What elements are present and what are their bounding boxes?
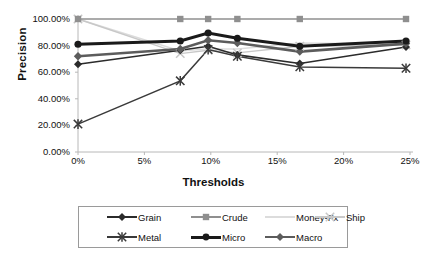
legend-row: GrainCrudeMoney-FxShip — [79, 207, 347, 227]
legend-swatch-crude-icon — [191, 211, 221, 223]
y-tick-label: 60.00% — [18, 67, 70, 77]
legend-swatch-grain-icon — [107, 211, 137, 223]
x-axis-title: Thresholds — [0, 176, 427, 188]
legend-row: MetalMicroMacro — [79, 227, 347, 247]
legend-label: Grain — [138, 212, 161, 223]
y-tick-label: 40.00% — [18, 94, 70, 104]
legend-label: Ship — [346, 212, 365, 223]
series-markers-ship — [74, 15, 410, 58]
legend-label: Macro — [296, 232, 322, 243]
legend-label: Metal — [138, 232, 161, 243]
legend-item-crude[interactable]: Crude — [191, 207, 248, 227]
x-tick-label: 25% — [390, 156, 427, 166]
legend-item-metal[interactable]: Metal — [107, 227, 161, 247]
legend-swatch-money-fx-icon — [265, 211, 295, 223]
series-line-metal — [78, 50, 406, 124]
y-tick-label: 20.00% — [18, 120, 70, 130]
legend-item-macro[interactable]: Macro — [265, 227, 322, 247]
y-tick-label: 100.00% — [18, 14, 70, 24]
x-tick-label: 10% — [191, 156, 231, 166]
legend-swatch-ship-icon — [315, 211, 345, 223]
legend-item-micro[interactable]: Micro — [191, 227, 245, 247]
x-tick-label: 5% — [124, 156, 164, 166]
legend-swatch-macro-icon — [265, 231, 295, 243]
x-tick-label: 15% — [257, 156, 297, 166]
chart-legend: GrainCrudeMoney-FxShip MetalMicroMacro — [78, 206, 348, 248]
legend-item-grain[interactable]: Grain — [107, 207, 161, 227]
legend-label: Crude — [222, 212, 248, 223]
legend-swatch-metal-icon — [107, 231, 137, 243]
x-tick-label: 0% — [58, 156, 98, 166]
legend-swatch-micro-icon — [191, 231, 221, 243]
y-tick-label: 80.00% — [18, 41, 70, 51]
legend-label: Micro — [222, 232, 245, 243]
legend-item-ship[interactable]: Ship — [315, 207, 365, 227]
precision-thresholds-chart: Precision 0.00%20.00%40.00%60.00%80.00%1… — [0, 0, 427, 264]
x-tick-label: 20% — [324, 156, 364, 166]
